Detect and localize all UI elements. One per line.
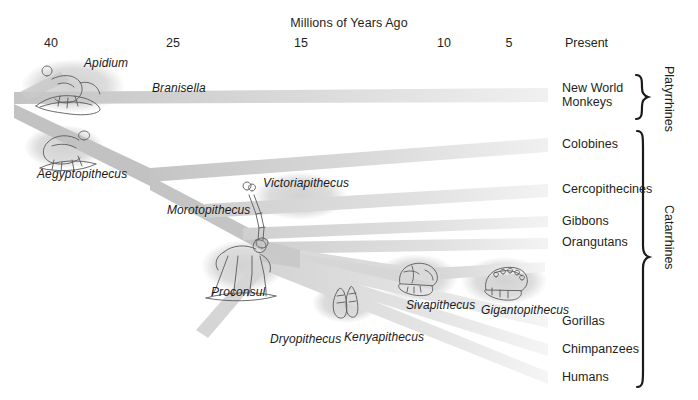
- taxon-label-humans: Humans: [562, 371, 609, 385]
- taxon-label-line: Humans: [562, 371, 609, 385]
- taxon-label-gibbons: Gibbons: [562, 215, 609, 229]
- taxon-label-line: Colobines: [562, 138, 618, 152]
- taxon-label-cercopithecines: Cercopithecines: [562, 183, 652, 197]
- fossil-label-kenyapithecus: Kenyapithecus: [344, 330, 424, 344]
- fossil-label-dryopithecus: Dryopithecus: [270, 332, 341, 346]
- fossil-label-morotopithecus: Morotopithecus: [167, 203, 250, 217]
- taxon-label-line: Gorillas: [562, 315, 605, 329]
- taxon-label-colobines: Colobines: [562, 138, 618, 152]
- taxon-label-new-world: New WorldMonkeys: [562, 82, 623, 109]
- taxon-label-line: Cercopithecines: [562, 183, 652, 197]
- taxon-label-line: Orangutans: [562, 236, 628, 250]
- taxon-label-gorillas: Gorillas: [562, 315, 605, 329]
- fossil-label-gigantopithecus: Gigantopithecus: [481, 303, 569, 317]
- fossil-label-apidium: Apidium: [84, 56, 128, 70]
- taxon-label-line: Chimpanzees: [562, 343, 639, 357]
- fossil-label-branisella: Branisella: [152, 81, 206, 95]
- fossil-label-proconsul: Proconsul: [211, 285, 265, 299]
- taxon-label-chimpanzees: Chimpanzees: [562, 343, 639, 357]
- figure-canvas: Millions of Years Ago 402515105Present: [0, 0, 698, 400]
- fossil-label-sivapithecus: Sivapithecus: [406, 298, 475, 312]
- taxon-label-line: Monkeys: [562, 96, 623, 110]
- fossil-label-aegyptopithecus: Aegyptopithecus: [37, 167, 127, 181]
- group-label-platyrrhines: Platyrrhines: [662, 66, 676, 132]
- taxon-label-line: New World: [562, 82, 623, 96]
- fossil-label-victoriapithecus: Victoriapithecus: [263, 176, 349, 190]
- group-braces: [636, 75, 649, 387]
- taxon-label-line: Gibbons: [562, 215, 609, 229]
- taxon-label-orangutans: Orangutans: [562, 236, 628, 250]
- group-label-catarrhines: Catarrhines: [662, 205, 676, 270]
